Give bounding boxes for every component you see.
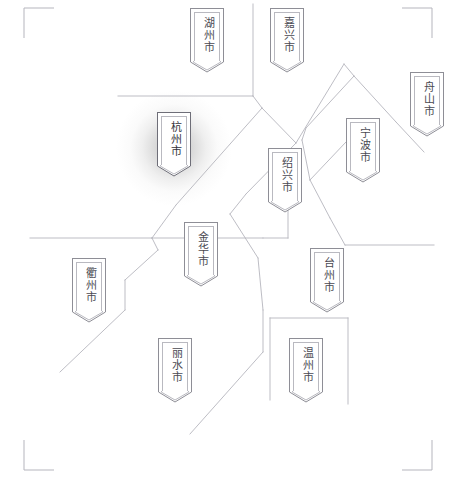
city-name-label: 嘉兴市 — [281, 9, 294, 59]
boundary-line — [262, 108, 296, 143]
pennant-body: 金华市 — [184, 222, 218, 276]
city-marker-taizhou[interactable]: 台州市 — [310, 248, 344, 312]
pennant-tip — [270, 61, 304, 72]
corner-mark-top-right — [402, 8, 432, 38]
corner-mark-top-left — [24, 8, 54, 38]
boundary-line — [354, 76, 396, 122]
pennant-body: 衢州市 — [72, 258, 106, 312]
city-name-label: 台州市 — [321, 249, 334, 299]
pennant-body: 杭州市 — [157, 112, 191, 166]
city-name-label: 丽水市 — [169, 339, 182, 389]
pennant-body: 丽水市 — [158, 338, 192, 392]
boundary-line — [296, 64, 344, 143]
corner-crop-marks — [0, 0, 456, 480]
province-boundary-lines — [0, 0, 456, 480]
city-name-label: 温州市 — [300, 339, 313, 389]
pennant-body: 嘉兴市 — [270, 8, 304, 62]
city-marker-wenzhou[interactable]: 温州市 — [289, 338, 323, 402]
city-name-label: 舟山市 — [421, 73, 434, 123]
pennant-tip — [268, 201, 302, 212]
pennant-tip — [289, 391, 323, 402]
pennant-tip — [410, 125, 444, 136]
pennant-body: 温州市 — [289, 338, 323, 392]
city-marker-huzhou[interactable]: 湖州市 — [190, 8, 224, 72]
city-marker-quzhou[interactable]: 衢州市 — [72, 258, 106, 322]
boundary-line — [344, 64, 354, 76]
boundary-line — [230, 214, 258, 258]
pennant-body: 台州市 — [310, 248, 344, 302]
boundary-line — [258, 258, 263, 310]
corner-mark-bottom-right — [402, 440, 432, 470]
city-name-label: 宁波市 — [357, 119, 370, 169]
pennant-tip — [158, 391, 192, 402]
pennant-tip — [346, 171, 380, 182]
boundary-line — [302, 140, 310, 180]
pennant-body: 宁波市 — [346, 118, 380, 172]
city-name-label: 绍兴市 — [279, 149, 292, 199]
corner-mark-bottom-left — [24, 440, 54, 470]
pennant-body: 绍兴市 — [268, 148, 302, 202]
boundary-line — [230, 194, 246, 214]
city-name-label: 金华市 — [195, 223, 208, 273]
pennant-tip — [157, 165, 191, 176]
city-marker-zhoushan[interactable]: 舟山市 — [410, 72, 444, 136]
city-marker-ningbo[interactable]: 宁波市 — [346, 118, 380, 182]
city-marker-lishui[interactable]: 丽水市 — [158, 338, 192, 402]
city-marker-jinhua[interactable]: 金华市 — [184, 222, 218, 286]
city-name-label: 湖州市 — [201, 9, 214, 59]
pennant-body: 湖州市 — [190, 8, 224, 62]
boundary-line — [310, 180, 330, 218]
pennant-body: 舟山市 — [410, 72, 444, 126]
pennant-tip — [72, 311, 106, 322]
city-marker-jiaxing[interactable]: 嘉兴市 — [270, 8, 304, 72]
city-name-label: 杭州市 — [168, 113, 181, 163]
boundary-line — [152, 238, 158, 250]
boundary-line — [330, 218, 345, 245]
boundary-line — [125, 250, 158, 280]
boundary-line — [302, 128, 306, 140]
city-marker-shaoxing[interactable]: 绍兴市 — [268, 148, 302, 212]
city-name-label: 衢州市 — [83, 259, 96, 309]
boundary-line — [152, 205, 176, 238]
pennant-tip — [184, 275, 218, 286]
pennant-tip — [190, 61, 224, 72]
map-canvas[interactable]: 湖州市嘉兴市舟山市宁波市杭州市绍兴市金华市台州市衢州市丽水市温州市 — [0, 0, 456, 480]
boundary-line — [310, 142, 346, 180]
pennant-tip — [310, 301, 344, 312]
city-marker-hangzhou[interactable]: 杭州市 — [157, 112, 191, 176]
boundary-line — [190, 352, 263, 434]
boundary-line — [253, 96, 262, 108]
